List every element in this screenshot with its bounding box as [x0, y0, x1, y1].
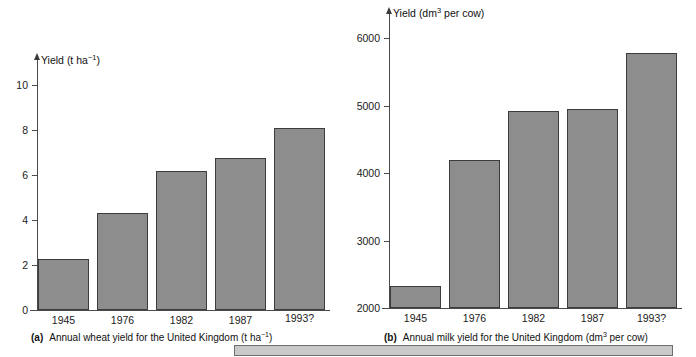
x-tick-label-a-1945: 1945	[38, 315, 89, 326]
y-axis-arrow-a	[34, 53, 40, 60]
caption-a: (a)Annual wheat yield for the United Kin…	[31, 332, 272, 344]
y-tick-label-a-6: 6	[4, 170, 28, 181]
caption-a-main: Annual wheat yield for the United Kingdo…	[49, 332, 261, 343]
y-tick-label-a-8: 8	[4, 125, 28, 136]
y-tick-mark-a-10	[32, 85, 37, 86]
y-tick-mark-a-6	[32, 175, 37, 176]
x-tick-label-b-1982: 1982	[508, 313, 559, 324]
y-tick-mark-b-6000	[384, 38, 389, 39]
y-axis-arrow-b	[386, 7, 392, 14]
y-tick-label-b-4000: 4000	[348, 168, 380, 179]
x-tick-label-b-1976: 1976	[449, 313, 500, 324]
y-tick-mark-b-2000	[384, 308, 389, 309]
caption-b-end: per cow)	[607, 332, 648, 343]
y-tick-label-a-0: 0	[4, 305, 28, 316]
x-axis-line-a	[30, 310, 330, 311]
y-tick-label-b-5000: 5000	[348, 101, 380, 112]
y-tick-label-b-3000: 3000	[348, 236, 380, 247]
y-axis-title-a-end: )	[96, 54, 100, 66]
y-axis-title-a: Yield (t ha−1)	[41, 55, 100, 66]
y-tick-mark-a-0	[32, 310, 37, 311]
y-tick-mark-b-5000	[384, 106, 389, 107]
x-tick-label-a-1987: 1987	[215, 315, 266, 326]
x-tick-label-a-1993: 1993?	[274, 313, 325, 324]
bar-b-1945	[390, 286, 441, 308]
caption-a-tag: (a)	[31, 332, 43, 343]
x-tick-label-b-1993: 1993?	[626, 313, 677, 324]
y-axis-title-b-main: Yield (dm	[393, 7, 437, 19]
caption-b-main: Annual milk yield for the United Kingdom…	[403, 332, 603, 343]
bar-b-1976	[449, 160, 500, 308]
chart-panel-b: Yield (dm3 per cow) 2000 3000 4000 5000 …	[348, 0, 696, 357]
caption-b: (b)Annual milk yield for the United King…	[384, 332, 648, 344]
chart-panel-a: Yield (t ha−1) 0 2 4 6 8 10 1945 1976 19…	[0, 0, 348, 357]
bar-b-1993	[626, 53, 677, 308]
bar-b-1982	[508, 111, 559, 308]
y-axis-title-b-end: per cow)	[441, 7, 484, 19]
y-tick-label-b-6000: 6000	[348, 33, 380, 44]
caption-a-sup: −1	[261, 331, 269, 338]
y-tick-label-a-4: 4	[4, 215, 28, 226]
y-tick-label-a-2: 2	[4, 260, 28, 271]
bar-a-1993	[274, 128, 325, 310]
y-tick-mark-b-4000	[384, 173, 389, 174]
y-axis-line-b	[389, 14, 390, 309]
y-axis-title-b: Yield (dm3 per cow)	[393, 8, 484, 19]
y-axis-title-a-main: Yield (t ha	[41, 54, 88, 66]
caption-b-tag: (b)	[384, 332, 397, 343]
bar-a-1987	[215, 158, 266, 310]
bar-b-1987	[567, 109, 618, 308]
y-tick-mark-a-8	[32, 130, 37, 131]
figure-root: Yield (t ha−1) 0 2 4 6 8 10 1945 1976 19…	[0, 0, 696, 357]
y-tick-label-a-10: 10	[4, 80, 28, 91]
x-tick-label-b-1945: 1945	[390, 313, 441, 324]
y-tick-mark-a-2	[32, 265, 37, 266]
bottom-panel-strip	[234, 345, 673, 356]
y-tick-mark-b-3000	[384, 241, 389, 242]
bar-a-1945	[38, 259, 89, 310]
x-tick-label-a-1976: 1976	[97, 315, 148, 326]
x-tick-label-b-1987: 1987	[567, 313, 618, 324]
y-tick-mark-a-4	[32, 220, 37, 221]
y-tick-label-b-2000: 2000	[348, 303, 380, 314]
caption-a-end: )	[269, 332, 272, 343]
x-tick-label-a-1982: 1982	[156, 315, 207, 326]
bar-a-1976	[97, 213, 148, 310]
x-axis-line-b	[382, 308, 682, 309]
bar-a-1982	[156, 171, 207, 311]
